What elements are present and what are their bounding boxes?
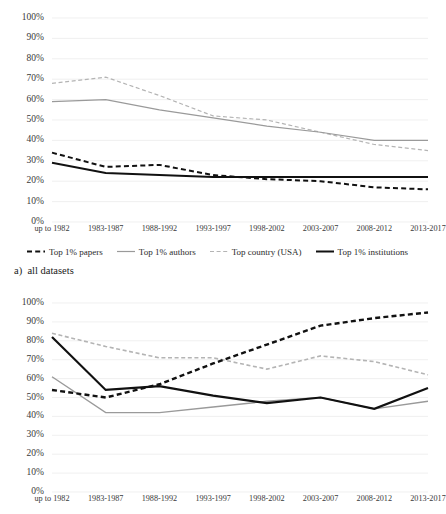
- legend-item[interactable]: Top country (USA): [210, 247, 302, 257]
- legend-line-swatch: [316, 247, 334, 256]
- x-tick-label: 1983-1987: [88, 494, 123, 503]
- gridlines: [52, 18, 428, 222]
- series-line: [52, 337, 428, 409]
- x-axis-labels-a: up to 19821983-19871988-19921993-1997199…: [0, 224, 435, 238]
- gridlines: [52, 303, 428, 492]
- legend-label: Top 1% institutions: [338, 247, 408, 257]
- legend-item[interactable]: Top 1% institutions: [316, 247, 408, 257]
- series-line: [52, 163, 428, 177]
- x-tick-label: up to 1982: [34, 494, 69, 503]
- series-line: [52, 153, 428, 190]
- legend-label: Top 1% authors: [139, 247, 196, 257]
- legend-line-swatch: [210, 247, 228, 256]
- x-tick-label: 1993-1997: [195, 224, 230, 233]
- plot-area-b: [0, 288, 435, 496]
- x-axis-labels-b: up to 19821983-19871988-19921993-1997199…: [0, 494, 435, 508]
- x-tick-label: 2013-2017: [410, 224, 445, 233]
- x-tick-label: 1993-1997: [195, 494, 230, 503]
- chart-legend: Top 1% papersTop 1% authorsTop country (…: [0, 244, 435, 259]
- plot-wrap-b: 0%10%20%30%40%50%60%70%80%90%100% up to …: [0, 288, 435, 514]
- series-line: [52, 312, 428, 397]
- series-line: [52, 333, 428, 375]
- plot-area-a: [0, 0, 435, 226]
- x-tick-label: 2008-2012: [357, 494, 392, 503]
- x-tick-label: 2003-2007: [303, 494, 338, 503]
- legend-label: Top 1% papers: [49, 247, 103, 257]
- plot-wrap-a: 0%10%20%30%40%50%60%70%80%90%100% up to …: [0, 0, 435, 240]
- x-tick-label: 1988-1992: [142, 494, 177, 503]
- x-tick-label: 2003-2007: [303, 224, 338, 233]
- legend-line-swatch: [117, 247, 135, 256]
- legend-label: Top country (USA): [232, 247, 302, 257]
- x-tick-label: 1983-1987: [88, 224, 123, 233]
- chart-second-panel: 0%10%20%30%40%50%60%70%80%90%100% up to …: [0, 288, 435, 514]
- chart-all-datasets: 0%10%20%30%40%50%60%70%80%90%100% up to …: [0, 0, 435, 240]
- legend-line-swatch: [27, 247, 45, 256]
- legend-item[interactable]: Top 1% papers: [27, 247, 103, 257]
- x-tick-label: up to 1982: [34, 224, 69, 233]
- legend-item[interactable]: Top 1% authors: [117, 247, 196, 257]
- x-tick-label: 1998-2002: [249, 494, 284, 503]
- figure-caption-a: a) all datasets: [14, 265, 74, 277]
- x-tick-label: 2013-2017: [410, 494, 445, 503]
- x-tick-label: 1998-2002: [249, 224, 284, 233]
- x-tick-label: 1988-1992: [142, 224, 177, 233]
- x-tick-label: 2008-2012: [357, 224, 392, 233]
